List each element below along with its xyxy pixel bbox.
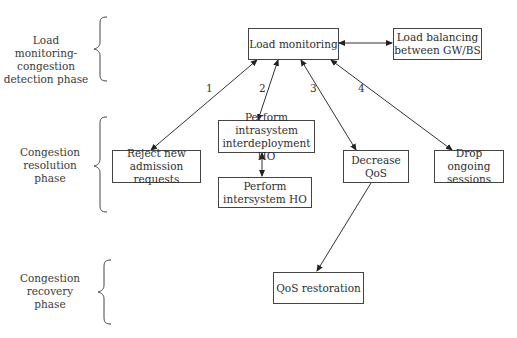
phase-label-detection: Load monitoring- congestion detection ph… xyxy=(2,34,90,86)
node-load-monitoring: Load monitoring xyxy=(248,28,339,60)
edge-4-drop-sessions xyxy=(331,60,452,150)
node-intrasystem-ho: Perform intrasystem interdeployment HO xyxy=(218,120,315,153)
node-load-balancing: Load balancing between GW/BS xyxy=(393,28,482,60)
edge-label-3: 3 xyxy=(310,82,317,94)
edge-label-4: 4 xyxy=(358,82,365,94)
node-qos-restoration: QoS restoration xyxy=(273,272,364,304)
phase-label-recovery: Congestion recovery phase xyxy=(14,272,86,311)
phase-label-resolution: Congestion resolution phase xyxy=(14,146,86,185)
brace-resolution xyxy=(94,117,107,212)
node-reject-admission: Reject new admission requests xyxy=(112,150,201,183)
edge-label-1: 1 xyxy=(206,82,213,94)
brace-detection xyxy=(94,17,107,81)
edge-label-2: 2 xyxy=(259,82,266,94)
brace-recovery xyxy=(98,260,111,324)
node-drop-sessions: Drop ongoing sessions xyxy=(434,150,504,183)
edge-decrease-restoration xyxy=(317,183,371,271)
node-intersystem-ho: Perform intersystem HO xyxy=(218,177,312,208)
node-decrease-qos: Decrease QoS xyxy=(343,150,409,183)
